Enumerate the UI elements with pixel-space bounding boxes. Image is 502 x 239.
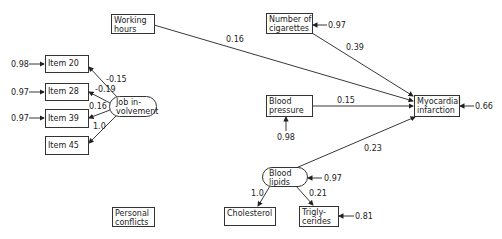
node-triglycerides: Trigly- cerides bbox=[299, 206, 339, 227]
node-personal-conflicts: Personal conflicts bbox=[112, 207, 155, 227]
residual-cigarettes: 0.97 bbox=[328, 21, 346, 30]
node-cholesterol: Cholesterol bbox=[224, 207, 276, 226]
edge-label-cholesterol: 1.0 bbox=[251, 189, 264, 198]
residual-item-28: 0.97 bbox=[11, 88, 29, 97]
node-label: Working hours bbox=[114, 16, 147, 34]
node-label: Trigly- cerides bbox=[302, 208, 331, 226]
node-myocardial-infarction: Myocardial infarction bbox=[414, 95, 460, 117]
residual-item-39: 0.97 bbox=[11, 114, 29, 123]
node-working-hours: Working hours bbox=[111, 14, 155, 34]
node-item-45: Item 45 bbox=[45, 136, 89, 155]
edge-label-item39: 0.16 bbox=[89, 102, 107, 111]
edge-label-triglycerides: 0.21 bbox=[309, 189, 327, 198]
node-label: Item 45 bbox=[48, 141, 79, 150]
residual-myocardial-infarction: 0.66 bbox=[475, 102, 493, 111]
node-label: Personal conflicts bbox=[115, 209, 149, 227]
node-item-39: Item 39 bbox=[45, 109, 89, 128]
node-label: Myocardial infarction bbox=[417, 97, 460, 115]
node-job-involvement: Job in- volvement bbox=[109, 96, 157, 117]
node-item-28: Item 28 bbox=[45, 83, 89, 101]
node-blood-lipids: Blood lipids bbox=[262, 167, 308, 187]
residual-blood-lipids: 0.97 bbox=[324, 174, 342, 183]
node-label: Blood lipids bbox=[269, 169, 292, 187]
node-item-20: Item 20 bbox=[45, 55, 89, 73]
edge-label-item28: -0.19 bbox=[95, 85, 116, 94]
node-label: Blood pressure bbox=[269, 97, 304, 115]
edge-label-blood-lipids: 0.23 bbox=[364, 144, 382, 153]
edge-label-item20: -0.15 bbox=[106, 75, 127, 84]
edge-label-working-hours: 0.16 bbox=[226, 35, 244, 44]
node-label: Item 39 bbox=[48, 114, 79, 123]
node-label: Job in- volvement bbox=[116, 98, 158, 116]
residual-item-20: 0.98 bbox=[11, 60, 29, 69]
node-label: Item 20 bbox=[48, 59, 79, 68]
edge-label-item45: 1.0 bbox=[93, 122, 106, 131]
residual-blood-pressure: 0.98 bbox=[277, 133, 295, 142]
residual-triglycerides: 0.81 bbox=[355, 212, 373, 221]
edge-label-blood-pressure: 0.15 bbox=[337, 96, 355, 105]
node-label: Item 28 bbox=[48, 87, 79, 96]
node-label: Cholesterol bbox=[227, 209, 272, 218]
edge-label-cigarettes: 0.39 bbox=[346, 43, 364, 52]
node-blood-pressure: Blood pressure bbox=[266, 95, 313, 117]
node-number-of-cigarettes: Number of cigarettes bbox=[266, 13, 313, 34]
node-label: Number of cigarettes bbox=[269, 15, 311, 33]
